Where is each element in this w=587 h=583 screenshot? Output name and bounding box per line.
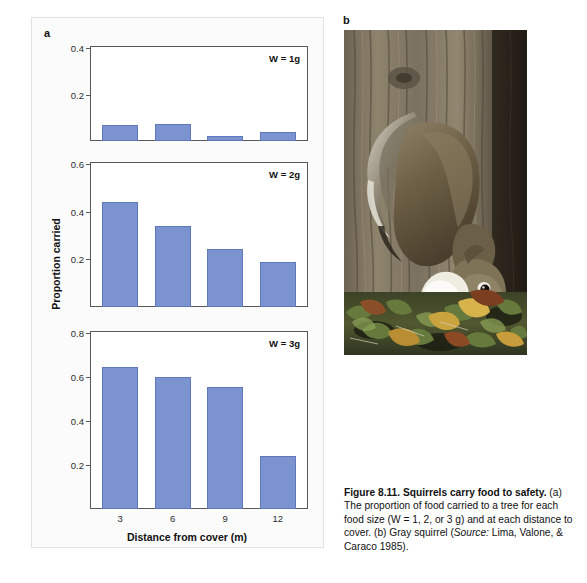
ytick-w3-0.6: 0.6 xyxy=(44,372,84,383)
ytick-w3-0.2: 0.2 xyxy=(44,460,84,471)
bar-w1-3m xyxy=(102,125,138,141)
ytick-mark xyxy=(86,259,90,260)
bar-w3-9m xyxy=(207,387,243,509)
ytick-w2-0.6: 0.6 xyxy=(44,159,84,170)
subplot-w1: W = 1g 0.20.4 xyxy=(90,46,308,141)
ytick-w3-0.8: 0.8 xyxy=(44,328,84,339)
figure-caption-source-label: Source: xyxy=(454,527,489,538)
ytick-mark xyxy=(86,95,90,96)
bar-w3-6m xyxy=(155,377,191,509)
bar-w3-12m xyxy=(260,456,296,509)
xtick-12: 12 xyxy=(260,513,296,524)
chart-panel-a: a Proportion carried W = 1g 0.20.4 W = 2… xyxy=(31,17,324,548)
ytick-mark xyxy=(86,377,90,378)
bar-w1-9m xyxy=(207,136,243,141)
xtick-9: 9 xyxy=(207,513,243,524)
x-axis-label: Distance from cover (m) xyxy=(62,531,312,543)
xtick-6: 6 xyxy=(155,513,191,524)
subplot-w2: W = 2g 0.20.40.6 xyxy=(90,162,308,307)
figure-caption-title: Figure 8.11. Squirrels carry food to saf… xyxy=(344,487,547,498)
panel-label-a: a xyxy=(44,27,50,39)
ytick-mark xyxy=(86,421,90,422)
ytick-w1-0.2: 0.2 xyxy=(44,89,84,100)
weight-annotation-w1: W = 1g xyxy=(269,53,300,64)
subplot-w3: W = 3g 0.20.40.60.8 xyxy=(90,331,308,509)
bars-layer-w3 xyxy=(90,331,308,509)
panel-label-b: b xyxy=(343,14,350,26)
bar-w3-3m xyxy=(102,367,138,509)
ytick-w3-0.4: 0.4 xyxy=(44,416,84,427)
bar-w1-12m xyxy=(260,132,296,141)
ytick-mark xyxy=(86,164,90,165)
bar-w2-6m xyxy=(155,226,191,307)
bars-layer-w2 xyxy=(90,162,308,307)
x-axis-tick-labels: 36912 xyxy=(90,513,308,524)
figure-caption: Figure 8.11. Squirrels carry food to saf… xyxy=(344,486,576,553)
ytick-mark xyxy=(86,465,90,466)
weight-annotation-w3: W = 3g xyxy=(269,338,300,349)
squirrel-photo-image xyxy=(344,30,527,355)
bar-w2-12m xyxy=(260,262,296,307)
ytick-mark xyxy=(86,48,90,49)
bar-w2-3m xyxy=(102,202,138,307)
bar-w2-9m xyxy=(207,249,243,307)
bar-w1-6m xyxy=(155,124,191,141)
ytick-w1-0.4: 0.4 xyxy=(44,43,84,54)
weight-annotation-w2: W = 2g xyxy=(269,169,300,180)
ytick-w2-0.4: 0.4 xyxy=(44,206,84,217)
ytick-mark xyxy=(86,212,90,213)
xtick-3: 3 xyxy=(102,513,138,524)
squirrel-photo xyxy=(344,30,527,355)
ytick-mark xyxy=(86,333,90,334)
ytick-w2-0.2: 0.2 xyxy=(44,254,84,265)
